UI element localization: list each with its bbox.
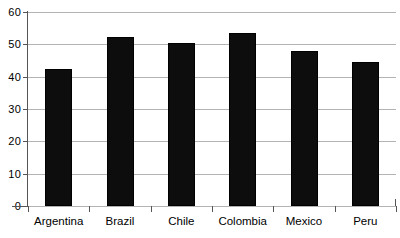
plot-area	[28, 12, 396, 206]
x-label-peru: Peru	[335, 215, 396, 228]
bar-chart: 0102030405060 ArgentinaBrazilChileColomb…	[0, 0, 400, 238]
bar-argentina[interactable]	[45, 69, 72, 206]
x-tick-mark-1	[89, 206, 90, 212]
x-label-brazil: Brazil	[89, 215, 150, 228]
bar-colombia[interactable]	[229, 33, 256, 206]
gridline-40	[28, 77, 396, 78]
bar-mexico[interactable]	[291, 51, 318, 206]
x-tick-mark-5	[335, 206, 336, 212]
x-tick-mark-2	[151, 206, 152, 212]
gridline-50	[28, 44, 396, 45]
gridline-30	[28, 109, 396, 110]
y-tick-label-10: 10	[0, 169, 21, 180]
gridline-10	[28, 174, 396, 175]
x-label-colombia: Colombia	[212, 215, 273, 228]
gridline-60	[28, 12, 396, 13]
bar-chile[interactable]	[168, 43, 195, 206]
y-axis-labels: 0102030405060	[0, 0, 21, 238]
x-tick-mark-6	[396, 206, 397, 212]
x-tick-mark-4	[273, 206, 274, 212]
x-label-argentina: Argentina	[28, 215, 89, 228]
y-tick-label-30: 30	[0, 104, 21, 115]
x-label-mexico: Mexico	[273, 215, 334, 228]
y-tick-label-20: 20	[0, 136, 21, 147]
gridline-20	[28, 141, 396, 142]
y-tick-label-60: 60	[0, 7, 21, 18]
y-tick-label-40: 40	[0, 72, 21, 83]
bar-brazil[interactable]	[107, 37, 134, 206]
bar-peru[interactable]	[352, 62, 379, 206]
x-tick-mark-0	[28, 206, 29, 212]
x-tick-mark-3	[212, 206, 213, 212]
y-tick-label-50: 50	[0, 39, 21, 50]
x-label-chile: Chile	[151, 215, 212, 228]
